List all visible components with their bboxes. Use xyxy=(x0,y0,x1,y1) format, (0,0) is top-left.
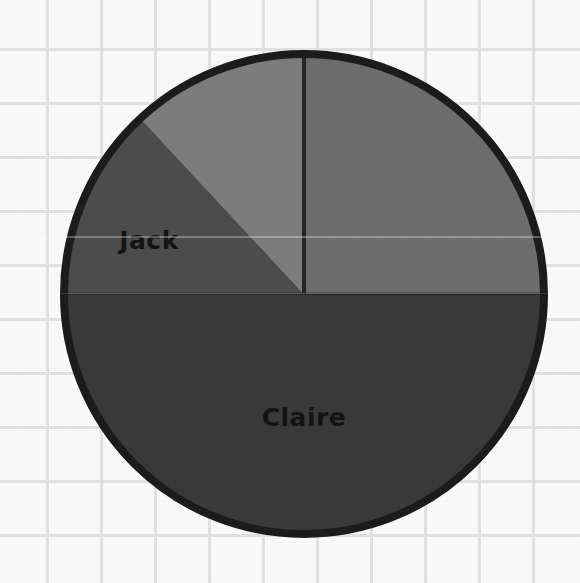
pie-chart-svg: Jack Claire xyxy=(0,0,580,583)
pie-label-jack: Jack xyxy=(117,226,179,255)
pie-chart-canvas: Jack Claire xyxy=(0,0,580,583)
pie-label-claire: Claire xyxy=(262,403,347,432)
